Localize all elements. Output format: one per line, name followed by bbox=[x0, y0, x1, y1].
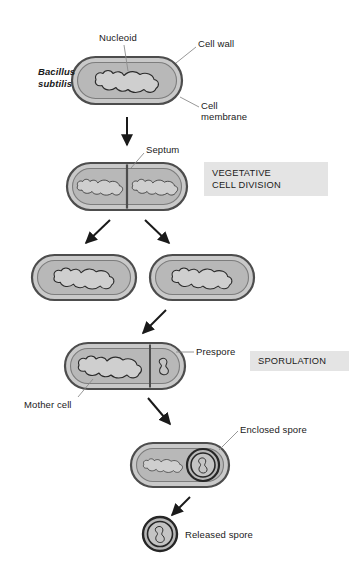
arrow-engulfment bbox=[148, 398, 170, 424]
stage-3-daughter-cell-left bbox=[32, 255, 136, 300]
leader-line-enclosed-spore bbox=[219, 431, 238, 450]
phase-band-sporulation: SPORULATION bbox=[250, 351, 349, 371]
stage-2-septation bbox=[67, 163, 187, 210]
label-cell-membrane-line1: Cell bbox=[201, 100, 218, 112]
phase-band-vegetative: VEGETATIVE CELL DIVISION bbox=[204, 162, 328, 196]
nucleoid-right bbox=[132, 179, 177, 195]
label-cell-wall: Cell wall bbox=[198, 38, 234, 50]
stage-4-sporulating-cell bbox=[65, 343, 185, 389]
organism-name-line2: subtilis bbox=[38, 78, 72, 90]
leader-line-cell-wall bbox=[176, 47, 196, 63]
arrow-division-right bbox=[145, 220, 169, 243]
label-cell-membrane-line2: membrane bbox=[201, 111, 247, 123]
arrow-spore-release bbox=[172, 497, 190, 515]
mother-cell-nucleoid bbox=[143, 459, 182, 473]
label-septum: Septum bbox=[146, 144, 179, 156]
enclosed-spore bbox=[187, 449, 219, 481]
phase-sporulation-line1: SPORULATION bbox=[258, 355, 326, 367]
nucleoid bbox=[54, 268, 114, 289]
nucleoid bbox=[95, 71, 158, 93]
label-mother-cell: Mother cell bbox=[24, 399, 72, 411]
arrow-sporulation-entry bbox=[143, 310, 166, 333]
phase-vegetative-line1: VEGETATIVE bbox=[212, 167, 281, 179]
bacillus-sporulation-diagram: Bacillus subtilis Nucleoid Cell wall Cel… bbox=[0, 0, 359, 565]
label-enclosed-spore: Enclosed spore bbox=[240, 424, 307, 436]
label-released-spore: Released spore bbox=[185, 529, 253, 541]
stage-3-daughter-cell-right bbox=[150, 255, 254, 300]
arrow-division-left bbox=[86, 220, 110, 243]
label-prespore: Prespore bbox=[196, 346, 235, 358]
stage-5-enclosed-spore-cell bbox=[131, 443, 229, 487]
mother-cell-nucleoid bbox=[78, 356, 141, 378]
phase-vegetative-line2: CELL DIVISION bbox=[212, 179, 281, 191]
nucleoid-left bbox=[77, 179, 122, 195]
organism-name-line1: Bacillus bbox=[38, 66, 75, 78]
leader-line-cell-membrane bbox=[180, 97, 199, 107]
stage-6-released-spore bbox=[143, 517, 177, 551]
nucleoid bbox=[172, 268, 232, 289]
label-nucleoid: Nucleoid bbox=[99, 32, 137, 44]
